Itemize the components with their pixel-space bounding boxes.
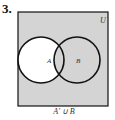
caption: A' ∪ B [0,107,115,116]
set-a-label: A [46,57,52,65]
venn-diagram: U A B [0,0,115,120]
set-b-label: B [76,57,81,65]
